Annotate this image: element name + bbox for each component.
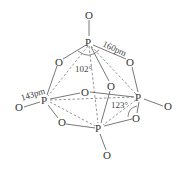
label-angle-123: 123° xyxy=(111,100,129,110)
atom-o-bottom: O xyxy=(103,149,111,161)
solid-bonds xyxy=(24,20,163,150)
atom-o-upper-right: O xyxy=(126,56,134,68)
atom-o-top: O xyxy=(85,9,93,21)
atom-o-lower-right: O xyxy=(132,112,140,124)
atom-o-lower-left: O xyxy=(58,116,66,128)
label-bond-160pm: 160pm xyxy=(101,39,128,59)
label-angle-102: 102° xyxy=(75,64,93,74)
atom-o-center: O xyxy=(107,80,115,92)
p4o10-structure-diagram: O P O O O O P O P O O O P O 143pm 160pm … xyxy=(0,0,179,173)
atom-p-right: P xyxy=(135,91,141,103)
atom-o-right: O xyxy=(164,100,172,112)
atom-p-bottom: P xyxy=(95,122,101,134)
atom-o-front: O xyxy=(81,86,89,98)
atom-p-top: P xyxy=(85,36,91,48)
atom-o-upper-left: O xyxy=(55,56,63,68)
